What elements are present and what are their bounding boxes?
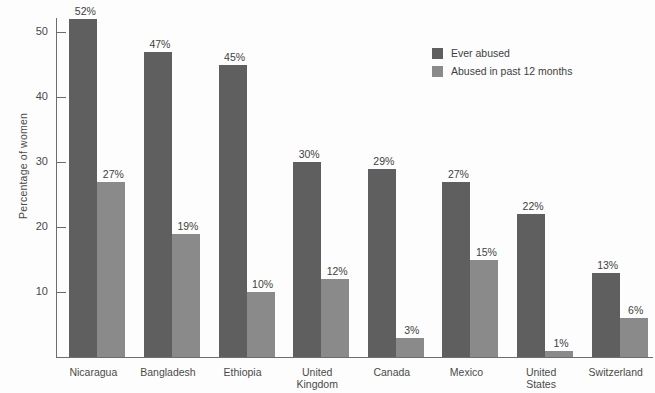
- bar-value-label: 10%: [246, 279, 280, 290]
- bar-group: 29%3%: [368, 18, 424, 357]
- bar-value-label: 30%: [292, 149, 326, 160]
- bar-ever-abused: [368, 169, 396, 358]
- bar-value-label: 22%: [516, 201, 550, 212]
- y-axis-tick-label: 20: [4, 221, 48, 232]
- bar-abused-past-12-months: [470, 260, 498, 358]
- bar-value-label: 12%: [320, 266, 354, 277]
- bar-group: 30%12%: [293, 18, 349, 357]
- y-axis-tick-label: 10: [4, 286, 48, 297]
- legend-swatch-icon: [432, 66, 443, 77]
- bar-value-label: 27%: [96, 169, 130, 180]
- bar-value-label: 29%: [367, 156, 401, 167]
- x-axis-label: Switzerland: [578, 366, 653, 378]
- bar-value-label: 45%: [218, 52, 252, 63]
- bar-ever-abused: [144, 52, 172, 358]
- bar-ever-abused: [442, 182, 470, 358]
- bar-value-label: 1%: [544, 338, 578, 349]
- bar-value-label: 47%: [143, 39, 177, 50]
- legend-label: Abused in past 12 months: [451, 66, 572, 77]
- x-axis-label: Ethiopia: [205, 366, 280, 378]
- chart-legend: Ever abusedAbused in past 12 months: [432, 48, 572, 84]
- y-axis-tick-label: 40: [4, 91, 48, 102]
- bar-value-label: 15%: [469, 247, 503, 258]
- bar-group: 52%27%: [69, 18, 125, 357]
- bar-abused-past-12-months: [545, 351, 573, 358]
- x-axis-label: Mexico: [429, 366, 504, 378]
- bar-abused-past-12-months: [396, 338, 424, 358]
- x-axis-label: UnitedKingdom: [280, 366, 355, 390]
- x-axis-label: UnitedStates: [504, 366, 579, 390]
- bar-abused-past-12-months: [321, 279, 349, 357]
- x-axis-label: Bangladesh: [131, 366, 206, 378]
- bar-group: 45%10%: [219, 18, 275, 357]
- bar-ever-abused: [69, 19, 97, 357]
- bar-value-label: 19%: [171, 221, 205, 232]
- bar-ever-abused: [592, 273, 620, 358]
- bar-abused-past-12-months: [620, 318, 648, 357]
- bar-value-label: 52%: [68, 6, 102, 17]
- bar-ever-abused: [219, 65, 247, 358]
- bar-group: 13%6%: [592, 18, 648, 357]
- x-axis-label: Canada: [355, 366, 430, 378]
- bar-ever-abused: [517, 214, 545, 357]
- x-axis-line: [56, 357, 653, 358]
- bar-group: 47%19%: [144, 18, 200, 357]
- bar-value-label: 6%: [619, 305, 653, 316]
- bar-value-label: 13%: [591, 260, 625, 271]
- bar-abused-past-12-months: [247, 292, 275, 357]
- legend-label: Ever abused: [451, 48, 510, 59]
- legend-item: Ever abused: [432, 48, 572, 59]
- bar-value-label: 27%: [441, 169, 475, 180]
- bar-ever-abused: [293, 162, 321, 357]
- legend-item: Abused in past 12 months: [432, 66, 572, 77]
- x-axis-label: Nicaragua: [56, 366, 131, 378]
- bar-abused-past-12-months: [172, 234, 200, 358]
- bar-abused-past-12-months: [97, 182, 125, 358]
- bar-value-label: 3%: [395, 325, 429, 336]
- bar-chart: Percentage of women 1020304050 52%27%47%…: [0, 0, 655, 393]
- y-axis-tick-label: 50: [4, 26, 48, 37]
- legend-swatch-icon: [432, 48, 443, 59]
- y-axis-tick-label: 30: [4, 156, 48, 167]
